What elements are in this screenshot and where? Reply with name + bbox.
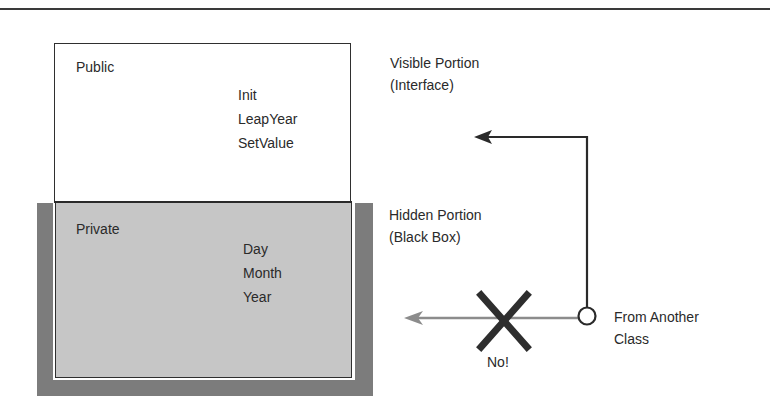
private-label: Private [76,217,120,241]
top-rule [0,8,770,10]
blocked-label: No! [487,351,509,373]
hidden-portion-label: Hidden Portion (Black Box) [389,204,482,248]
hidden-portion-line2: (Black Box) [389,226,482,248]
source-class-line2: Class [614,328,699,350]
public-member: LeapYear [238,107,297,131]
source-class-label: From Another Class [614,306,699,350]
source-class-line1: From Another [614,306,699,328]
cross-icon [481,295,527,347]
public-member-list: Init LeapYear SetValue [238,83,297,155]
blocked-access-arrow [404,311,578,325]
private-member: Month [243,261,282,285]
public-label: Public [76,55,114,79]
arrowhead-icon [404,311,423,325]
hidden-portion-line1: Hidden Portion [389,204,482,226]
visible-portion-line1: Visible Portion [390,52,479,74]
visible-portion-line2: (Interface) [390,74,479,96]
public-member: SetValue [238,131,297,155]
arrowhead-icon [474,130,492,144]
public-member: Init [238,83,297,107]
allowed-access-arrow [474,130,587,307]
visible-portion-label: Visible Portion (Interface) [390,52,479,96]
private-member: Day [243,237,282,261]
source-node-icon [579,308,596,325]
private-member-list: Day Month Year [243,237,282,309]
private-member: Year [243,285,282,309]
section-divider [54,201,352,203]
